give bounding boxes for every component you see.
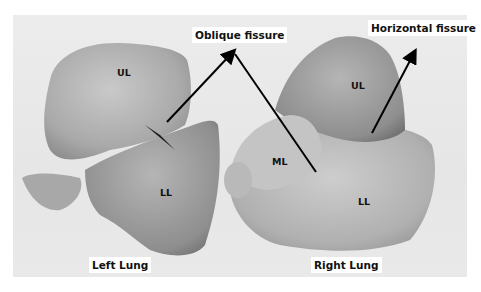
left-bronchus-shape xyxy=(22,174,81,211)
right-lung xyxy=(224,36,435,251)
right-middle-lobe-label: ML xyxy=(272,156,288,167)
lung-illustration xyxy=(0,0,481,292)
right-hilum-shape xyxy=(224,162,252,198)
right-lower-lobe-label: LL xyxy=(358,196,370,207)
horizontal-fissure-label: Horizontal fissure xyxy=(368,20,479,36)
left-lower-lobe-label: LL xyxy=(160,187,172,198)
oblique-fissure-label: Oblique fissure xyxy=(192,27,287,43)
left-upper-lobe-label: UL xyxy=(117,67,131,78)
left-lung-caption: Left Lung xyxy=(89,257,151,273)
right-upper-lobe-label: UL xyxy=(351,80,365,91)
right-lung-caption: Right Lung xyxy=(311,257,382,273)
